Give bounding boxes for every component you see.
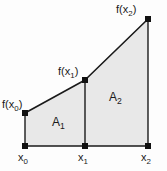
- area-label-a1: A1: [52, 116, 65, 131]
- axis-tick-label-x0: x0: [18, 152, 28, 166]
- area-label-a2-base: A: [109, 90, 117, 104]
- point-marker-x2: [145, 143, 151, 149]
- label-f-x2-base: f(x: [116, 3, 128, 15]
- point-marker-fx1: [82, 77, 88, 83]
- label-f-x1: f(x1): [58, 66, 78, 80]
- label-f-x2: f(x2): [116, 4, 136, 18]
- label-f-x0: f(x0): [2, 99, 22, 113]
- label-f-x1-close: ): [75, 65, 79, 77]
- axis-tick-label-x0-subscript: 0: [24, 157, 28, 166]
- label-f-x0-base: f(x: [2, 98, 14, 110]
- area-label-a2: A2: [109, 91, 122, 106]
- area-region-a2: [85, 19, 148, 146]
- point-marker-fx0: [22, 110, 28, 116]
- area-region-a1: [25, 80, 85, 146]
- axis-tick-label-x1: x1: [78, 152, 88, 166]
- axis-tick-label-x2: x2: [141, 152, 151, 166]
- area-label-a1-base: A: [52, 115, 60, 129]
- figure-svg: [0, 0, 167, 171]
- area-label-a2-subscript: 2: [117, 96, 122, 106]
- point-marker-fx2: [145, 16, 151, 22]
- axis-tick-label-x2-subscript: 2: [147, 157, 151, 166]
- trapezoid-area-figure: f(x0) f(x1) f(x2) x0 x1 x2 A1 A2: [0, 0, 167, 171]
- point-marker-x1: [82, 143, 88, 149]
- label-f-x0-close: ): [19, 98, 23, 110]
- label-f-x2-close: ): [133, 3, 137, 15]
- point-marker-x0: [22, 143, 28, 149]
- area-label-a1-subscript: 1: [60, 121, 65, 131]
- label-f-x1-base: f(x: [58, 65, 70, 77]
- axis-tick-label-x1-subscript: 1: [84, 157, 88, 166]
